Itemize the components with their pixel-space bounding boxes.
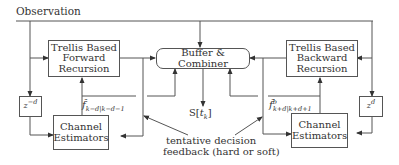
forward-line3: Recursion — [58, 64, 109, 75]
backward-recursion-block: Trellis Based Backward Recursion — [286, 40, 358, 77]
channel-estimators-right-block: Channel Estimators — [291, 113, 348, 148]
delay-right-block: zd — [359, 96, 383, 117]
backward-channel-estimate-label: f̂bk+d|k+d+1 — [269, 100, 312, 110]
forward-recursion-block: Trellis Based Forward Recursion — [48, 40, 120, 77]
buffer-combiner-block: Buffer & Combiner — [156, 48, 250, 69]
estimator-left-line2: Estimators — [53, 133, 108, 144]
delay-left-block: z−d — [19, 96, 42, 117]
estimator-left-line1: Channel — [60, 122, 102, 133]
delay-right-exp: d — [371, 99, 375, 107]
tentative-decision-annotation: tentative decision feedback (hard or sof… — [163, 136, 259, 157]
channel-estimators-left-block: Channel Estimators — [53, 115, 109, 150]
estimator-right-line1: Channel — [298, 120, 340, 131]
estimator-right-line2: Estimators — [292, 131, 347, 142]
forward-channel-estimate-label: f̂k−d|k−d−1 — [82, 100, 125, 110]
output-signal-label: S[tk] — [189, 108, 212, 118]
combiner-label: Buffer & Combiner — [157, 48, 249, 69]
observation-label: Observation — [16, 6, 81, 16]
backward-line3: Recursion — [296, 64, 347, 75]
delay-left-exp: −d — [28, 99, 38, 107]
